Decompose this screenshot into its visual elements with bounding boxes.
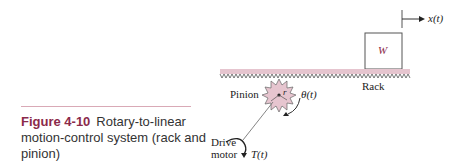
rack-label: Rack <box>362 80 385 92</box>
pinion-gear <box>262 79 296 112</box>
figure-number: Figure 4-10 <box>21 114 90 129</box>
motor-shaft <box>243 102 273 140</box>
radius-label: r <box>283 87 287 97</box>
mass-label: W <box>378 44 387 56</box>
torque-label: T(t) <box>251 148 268 160</box>
pinion-label: Pinion <box>230 88 259 100</box>
rack-teeth <box>220 74 410 78</box>
angle-label: θ(t) <box>301 88 317 100</box>
rack <box>220 69 410 74</box>
displacement-label: x(t) <box>428 12 443 24</box>
caption-rule <box>21 106 191 107</box>
figure-caption: Figure 4-10Rotary-to-linear motion-contr… <box>21 114 231 162</box>
